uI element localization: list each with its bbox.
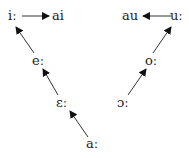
arrow-eps-to-e [43,69,58,95]
node-u-long: uː [170,9,183,22]
arrow-o-to-u [153,27,171,53]
node-i-long: iː [8,9,17,22]
arrows-layer [0,0,189,158]
node-epsilon-long: ɛː [56,96,67,109]
arrow-a-to-eps [70,111,88,137]
node-open-o-long: ɔː [117,96,129,109]
node-o-long: oː [145,54,157,67]
node-e-long: eː [32,54,44,67]
arrow-e-to-i [16,27,34,53]
arrow-oo-to-o [128,69,146,95]
node-au: au [122,9,138,22]
node-a-long: aː [86,137,98,150]
node-ai: ai [52,9,64,22]
